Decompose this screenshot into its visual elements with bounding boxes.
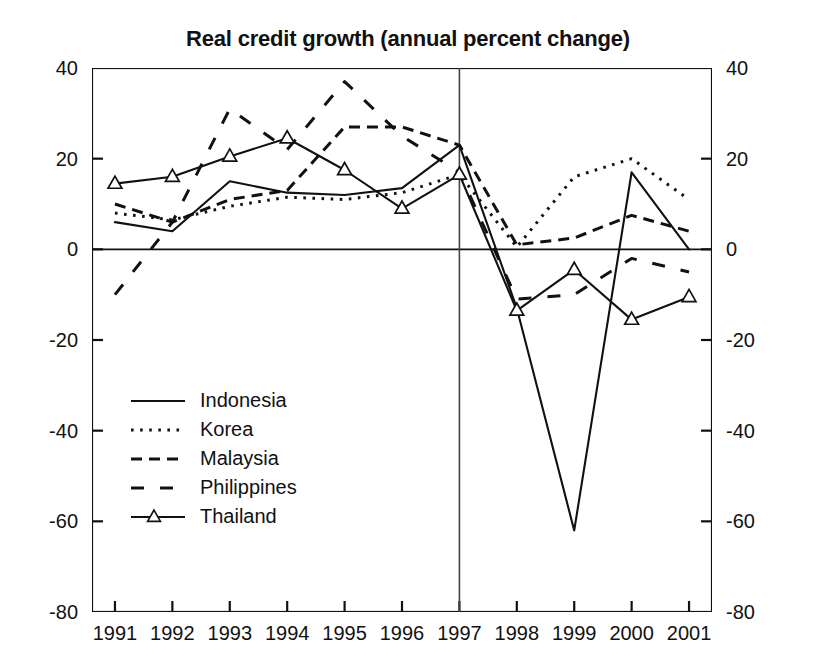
legend-triangle-marker bbox=[148, 510, 161, 521]
legend-item-korea: Korea bbox=[130, 415, 430, 444]
x-axis-ticks bbox=[115, 601, 689, 612]
triangle-marker bbox=[338, 163, 352, 175]
legend-line-swatch bbox=[130, 449, 186, 469]
y-axis-tick-label: 40 bbox=[0, 57, 78, 80]
triangle-marker bbox=[567, 262, 581, 274]
chart-legend: IndonesiaKoreaMalaysiaPhilippinesThailan… bbox=[130, 386, 430, 531]
y-axis-tick-label: 40 bbox=[726, 57, 748, 80]
triangle-marker bbox=[510, 303, 524, 315]
legend-item-philippines: Philippines bbox=[130, 473, 430, 502]
legend-item-thailand: Thailand bbox=[130, 502, 430, 531]
legend-item-malaysia: Malaysia bbox=[130, 444, 430, 473]
legend-label: Thailand bbox=[200, 505, 277, 528]
triangle-marker bbox=[395, 201, 409, 213]
x-axis-tick-label: 1996 bbox=[380, 622, 425, 645]
legend-label: Korea bbox=[200, 418, 253, 441]
legend-line-swatch bbox=[130, 478, 186, 498]
series-malaysia bbox=[115, 127, 689, 245]
y-axis-tick-label: -60 bbox=[726, 510, 755, 533]
x-axis-tick-label: 2001 bbox=[667, 622, 712, 645]
x-axis-tick-label: 1993 bbox=[208, 622, 253, 645]
y-axis-tick-label: -80 bbox=[726, 601, 755, 624]
y-axis-tick-label: -40 bbox=[0, 419, 78, 442]
legend-label: Malaysia bbox=[200, 447, 279, 470]
legend-line-swatch bbox=[130, 420, 186, 440]
series-line bbox=[115, 82, 689, 300]
y-axis-tick-label: -80 bbox=[0, 601, 78, 624]
series-philippines bbox=[115, 82, 689, 300]
series-thailand bbox=[108, 131, 696, 324]
y-axis-tick-label: 20 bbox=[0, 147, 78, 170]
x-axis-tick-label: 2000 bbox=[609, 622, 654, 645]
x-axis-tick-label: 1991 bbox=[93, 622, 138, 645]
y-axis-tick-label: 0 bbox=[726, 238, 737, 261]
x-axis-tick-label: 1999 bbox=[552, 622, 597, 645]
y-axis-tick-label: -20 bbox=[0, 329, 78, 352]
x-axis-tick-label: 1998 bbox=[495, 622, 540, 645]
x-axis-tick-label: 1992 bbox=[150, 622, 195, 645]
legend-line-swatch bbox=[130, 507, 186, 527]
chart-title: Real credit growth (annual percent chang… bbox=[0, 26, 816, 52]
triangle-marker bbox=[682, 289, 696, 301]
y-axis-tick-label: -40 bbox=[726, 419, 755, 442]
x-axis-tick-label: 1997 bbox=[437, 622, 482, 645]
y-axis-tick-label: -60 bbox=[0, 510, 78, 533]
legend-label: Indonesia bbox=[200, 389, 287, 412]
triangle-marker bbox=[280, 131, 294, 143]
y-axis-tick-label: 20 bbox=[726, 147, 748, 170]
x-axis-tick-label: 1995 bbox=[322, 622, 367, 645]
legend-line-swatch bbox=[130, 391, 186, 411]
triangle-marker bbox=[453, 167, 467, 179]
legend-label: Philippines bbox=[200, 476, 297, 499]
y-axis-tick-label: 0 bbox=[0, 238, 78, 261]
chart-figure: Real credit growth (annual percent chang… bbox=[0, 0, 816, 660]
x-axis-tick-label: 1994 bbox=[265, 622, 310, 645]
y-axis-tick-label: -20 bbox=[726, 329, 755, 352]
legend-item-indonesia: Indonesia bbox=[130, 386, 430, 415]
series-line bbox=[115, 127, 689, 245]
